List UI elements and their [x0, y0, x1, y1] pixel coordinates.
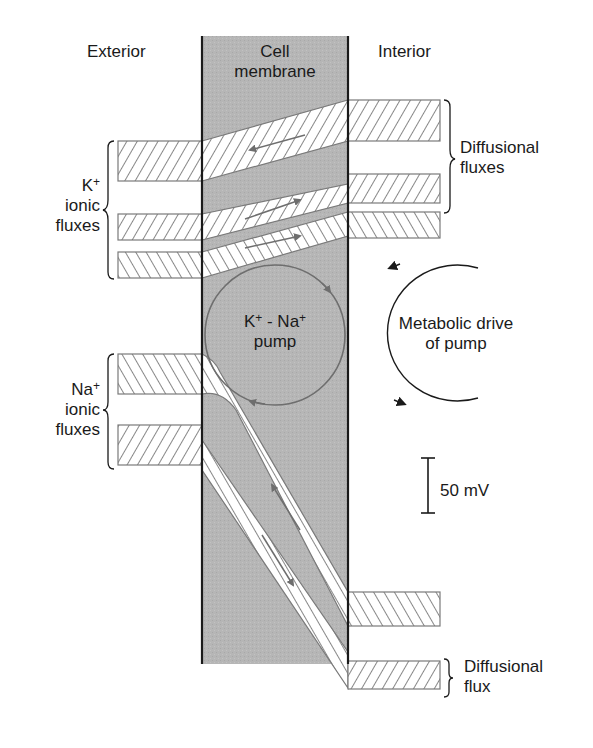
na-label-line2: ionic — [20, 400, 100, 420]
label-membrane-line2: membrane — [202, 62, 348, 82]
diffusional-flux-line1: Diffusional — [464, 657, 543, 677]
k-label-line3: fluxes — [20, 216, 100, 236]
pump-k-text: K — [244, 312, 255, 331]
label-cell-membrane: Cell membrane — [202, 42, 348, 82]
diffusional-flux-bands-interior — [348, 100, 440, 238]
na-ion-text: Na — [71, 380, 93, 399]
diffusional-flux-line2: flux — [464, 677, 543, 697]
k-ion-text: K — [82, 176, 93, 195]
label-k-ionic-fluxes: K+ ionic fluxes — [20, 176, 100, 236]
label-diffusional-flux: Diffusional flux — [464, 657, 543, 697]
pump-line2: pump — [205, 332, 345, 352]
pump-na-text: - Na — [262, 312, 299, 331]
membrane-diagram — [0, 0, 593, 748]
pump-k-sup: + — [255, 311, 262, 325]
label-membrane-line1: Cell — [202, 42, 348, 62]
scale-bar — [421, 458, 435, 513]
label-pump: K+ - Na+ pump — [205, 312, 345, 352]
na-ion-sup: + — [93, 379, 100, 393]
pump-na-sup: + — [299, 311, 306, 325]
metabolic-line1: Metabolic drive — [376, 314, 536, 334]
metabolic-line2: of pump — [376, 334, 536, 354]
label-interior: Interior — [378, 42, 431, 62]
label-exterior: Exterior — [87, 42, 146, 62]
k-ion-sup: + — [93, 175, 100, 189]
diffusional-fluxes-line1: Diffusional — [460, 138, 539, 158]
k-label-line2: ionic — [20, 196, 100, 216]
na-ionic-flux-bands — [118, 354, 202, 465]
label-diffusional-fluxes: Diffusional fluxes — [460, 138, 539, 178]
label-na-ionic-fluxes: Na+ ionic fluxes — [20, 380, 100, 440]
k-ionic-flux-bands — [118, 141, 202, 278]
na-label-line3: fluxes — [20, 420, 100, 440]
label-scale-bar: 50 mV — [440, 481, 489, 501]
label-metabolic-drive: Metabolic drive of pump — [376, 314, 536, 354]
diffusional-flux-band-bottom — [348, 592, 440, 689]
diffusional-fluxes-line2: fluxes — [460, 158, 539, 178]
